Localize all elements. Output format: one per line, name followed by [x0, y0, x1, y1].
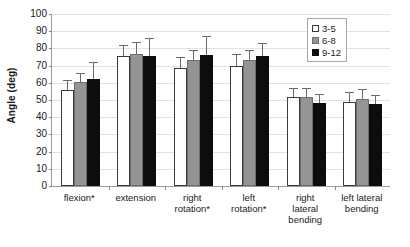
y-axis-tick-label: 40 — [21, 112, 47, 122]
bar-slot — [117, 14, 130, 186]
bar-slot — [287, 14, 300, 186]
error-bar-cap — [289, 88, 298, 89]
bar-slot — [243, 14, 256, 186]
y-axis-tick-mark — [49, 186, 52, 187]
error-bar — [123, 46, 124, 56]
error-bar-cap — [258, 43, 267, 44]
white-square-swatch — [312, 25, 319, 32]
error-bar-cap — [202, 36, 211, 37]
legend-item-label: 9-12 — [322, 47, 341, 58]
error-bar-cap — [315, 94, 324, 95]
error-bar-cap — [119, 45, 128, 46]
bar — [174, 68, 187, 186]
error-bar — [80, 74, 81, 82]
bar — [200, 55, 213, 186]
legend-item-label: 6-8 — [322, 35, 336, 46]
bar-slot — [369, 14, 382, 186]
bar-slot — [230, 14, 243, 186]
bar — [256, 56, 269, 186]
bar-slot — [61, 14, 74, 186]
y-axis-tick-label: 80 — [21, 43, 47, 53]
legend-item[interactable]: 3-5 — [312, 22, 341, 34]
y-axis-title: Angle (deg) — [0, 0, 22, 190]
y-axis-tick-label: 0 — [21, 181, 47, 191]
y-axis-title-text: Angle (deg) — [6, 67, 17, 123]
bar — [61, 90, 74, 186]
x-axis-tick-label-line: rotation* — [221, 203, 278, 214]
error-bar-cap — [132, 42, 141, 43]
bar-group — [52, 14, 109, 186]
x-axis-tick-label-line: left lateral — [334, 192, 391, 203]
bar — [74, 82, 87, 186]
y-axis-tick-label: 30 — [21, 129, 47, 139]
x-axis-tick-label: extension — [108, 192, 165, 203]
x-axis-tick-label-line: bending — [334, 203, 391, 214]
legend-item[interactable]: 9-12 — [312, 46, 341, 58]
y-axis-tick-label: 60 — [21, 78, 47, 88]
bar-slot — [174, 14, 187, 186]
x-axis-tick-labels: flexion*extensionrightrotation*leftrotat… — [51, 192, 390, 247]
x-axis-tick-label-line: bending — [277, 214, 334, 225]
error-bar — [93, 63, 94, 78]
bar-slot — [87, 14, 100, 186]
x-axis-tick-label-line: flexion* — [51, 192, 108, 203]
y-axis-tick-label: 100 — [21, 9, 47, 19]
error-bar — [249, 51, 250, 60]
error-bar-cap — [76, 73, 85, 74]
x-axis-tick-label: leftrotation* — [221, 192, 278, 214]
error-bar — [180, 58, 181, 68]
bar-slot — [187, 14, 200, 186]
error-bar-cap — [358, 89, 367, 90]
x-axis-tick-label: left lateralbending — [334, 192, 391, 214]
x-axis-tick-mark — [278, 186, 279, 190]
bar-group-bars — [165, 14, 222, 186]
bar-chart: Angle (deg) 0102030405060708090100 flexi… — [0, 0, 410, 247]
bar — [287, 97, 300, 186]
legend-item[interactable]: 6-8 — [312, 34, 341, 46]
y-axis-tick-label: 10 — [21, 164, 47, 174]
bar-slot — [143, 14, 156, 186]
bar — [87, 79, 100, 187]
error-bar — [136, 43, 137, 53]
x-axis-tick-mark — [335, 186, 336, 190]
x-axis-tick-mark — [109, 186, 110, 190]
bar-slot — [356, 14, 369, 186]
bar-slot — [74, 14, 87, 186]
bar-group — [165, 14, 222, 186]
bar-slot — [130, 14, 143, 186]
error-bar — [293, 89, 294, 98]
error-bar-cap — [345, 92, 354, 93]
x-axis-tick-label: flexion* — [51, 192, 108, 203]
y-axis-tick-label: 90 — [21, 26, 47, 36]
x-axis-tick-label-line: rotation* — [164, 203, 221, 214]
x-axis-tick-label-line: extension — [108, 192, 165, 203]
x-axis-tick-label-line: right — [277, 192, 334, 203]
error-bar — [206, 37, 207, 55]
error-bar-cap — [232, 54, 241, 55]
x-axis-tick-label: rightrotation* — [164, 192, 221, 214]
bar-slot — [200, 14, 213, 186]
bar — [187, 60, 200, 186]
bar — [230, 66, 243, 186]
error-bar — [319, 95, 320, 103]
black-square-swatch — [312, 49, 319, 56]
bar — [130, 54, 143, 186]
bar-group-bars — [52, 14, 109, 186]
bar — [243, 60, 256, 186]
x-axis-tick-label-line: right — [164, 192, 221, 203]
bar-group — [109, 14, 166, 186]
bar — [313, 103, 326, 186]
y-axis-tick-labels: 0102030405060708090100 — [22, 9, 50, 191]
error-bar — [236, 55, 237, 66]
x-axis-tick-label: rightlateralbending — [277, 192, 334, 225]
x-axis-tick-mark — [222, 186, 223, 190]
bar — [300, 97, 313, 186]
bar-group-bars — [109, 14, 166, 186]
y-axis-tick-label: 50 — [21, 95, 47, 105]
y-axis-tick-label: 70 — [21, 61, 47, 71]
bar-group — [222, 14, 279, 186]
error-bar-cap — [189, 50, 198, 51]
error-bar-cap — [63, 80, 72, 81]
bar-slot — [256, 14, 269, 186]
bar — [343, 102, 356, 186]
